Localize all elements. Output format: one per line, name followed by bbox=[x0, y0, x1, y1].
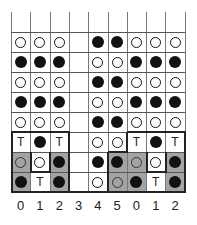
filled-circle-icon bbox=[150, 56, 162, 68]
grid-cell bbox=[88, 92, 107, 112]
grid-vline bbox=[88, 12, 89, 192]
filled-circle-icon bbox=[34, 56, 46, 68]
filled-circle-icon bbox=[111, 76, 123, 88]
grid-cell bbox=[69, 152, 88, 172]
open-circle-icon bbox=[15, 77, 26, 88]
grid-row bbox=[11, 72, 185, 92]
grid-cell bbox=[146, 92, 165, 112]
grid-cell: T bbox=[146, 172, 165, 192]
grid-cell bbox=[30, 152, 49, 172]
column-label: 2 bbox=[165, 198, 184, 213]
filled-circle-icon bbox=[53, 156, 65, 168]
grid-cell bbox=[69, 32, 88, 52]
grid-vline bbox=[127, 12, 128, 192]
tuck-symbol: T bbox=[17, 136, 24, 148]
grid-cell bbox=[88, 172, 107, 192]
column-label: 4 bbox=[88, 198, 107, 213]
grid-cell bbox=[108, 92, 127, 112]
grid-cell bbox=[127, 72, 146, 92]
grid-cell bbox=[108, 32, 127, 52]
open-circle-icon bbox=[150, 77, 161, 88]
thick-border bbox=[30, 171, 50, 173]
grid-cell bbox=[88, 32, 107, 52]
filled-circle-icon bbox=[130, 176, 142, 188]
thick-border bbox=[11, 132, 13, 193]
tuck-symbol: T bbox=[133, 136, 140, 148]
grid-cell bbox=[165, 152, 184, 172]
grid-cell bbox=[30, 92, 49, 112]
thick-border bbox=[11, 191, 186, 193]
grid-cell bbox=[50, 92, 69, 112]
grid-cell bbox=[88, 72, 107, 92]
filled-circle-icon bbox=[34, 96, 46, 108]
grid-hline bbox=[11, 112, 185, 113]
filled-circle-icon bbox=[92, 76, 104, 88]
grid-cell bbox=[30, 132, 49, 152]
grid-cell bbox=[127, 112, 146, 132]
grid-cell bbox=[11, 172, 30, 192]
grid-cell: T bbox=[50, 132, 69, 152]
grid-row bbox=[11, 152, 185, 172]
open-circle-icon bbox=[92, 97, 103, 108]
open-circle-icon bbox=[112, 177, 123, 188]
thick-border bbox=[49, 152, 51, 173]
thick-border bbox=[68, 132, 70, 193]
filled-circle-icon bbox=[92, 116, 104, 128]
thick-border bbox=[184, 132, 186, 193]
grid-cell bbox=[11, 152, 30, 172]
filled-circle-icon bbox=[34, 136, 46, 148]
open-circle-icon bbox=[92, 57, 103, 68]
tuck-symbol: T bbox=[171, 136, 178, 148]
open-circle-icon bbox=[112, 57, 123, 68]
filled-circle-icon bbox=[53, 96, 65, 108]
grid-cell bbox=[50, 32, 69, 52]
filled-circle-icon bbox=[130, 56, 142, 68]
open-circle-icon bbox=[34, 117, 45, 128]
grid-hline bbox=[11, 52, 185, 53]
grid-cell bbox=[30, 52, 49, 72]
grid-cell: T bbox=[11, 132, 30, 152]
grid-row bbox=[11, 32, 185, 52]
thick-border bbox=[165, 152, 167, 173]
filled-circle-icon bbox=[111, 156, 123, 168]
filled-circle-icon bbox=[111, 116, 123, 128]
open-circle-icon bbox=[112, 97, 123, 108]
grid-cell bbox=[146, 52, 165, 72]
filled-circle-icon bbox=[15, 96, 27, 108]
filled-circle-icon bbox=[53, 176, 65, 188]
open-circle-icon bbox=[15, 117, 26, 128]
open-circle-icon bbox=[54, 77, 65, 88]
grid-hline bbox=[11, 72, 185, 73]
thick-border bbox=[107, 152, 109, 193]
grid-cell bbox=[165, 172, 184, 192]
grid-cell bbox=[108, 132, 127, 152]
thick-border bbox=[11, 131, 70, 133]
grid-cell bbox=[69, 112, 88, 132]
grid-cell bbox=[11, 92, 30, 112]
grid-row bbox=[11, 52, 185, 72]
open-circle-icon bbox=[150, 117, 161, 128]
grid-cell bbox=[50, 72, 69, 92]
grid-cell bbox=[88, 112, 107, 132]
column-label: 1 bbox=[146, 198, 165, 213]
thick-border bbox=[30, 152, 32, 173]
grid-cell bbox=[30, 112, 49, 132]
grid-cell bbox=[50, 52, 69, 72]
grid-cell bbox=[50, 112, 69, 132]
open-circle-icon bbox=[34, 77, 45, 88]
grid-cell bbox=[127, 32, 146, 52]
grid-cell bbox=[11, 32, 30, 52]
grid-cell bbox=[50, 172, 69, 192]
grid-cell bbox=[88, 152, 107, 172]
grid-cell bbox=[165, 92, 184, 112]
thick-border bbox=[127, 131, 186, 133]
grid-cell bbox=[50, 152, 69, 172]
grid-cell: T bbox=[165, 132, 184, 152]
column-label: 3 bbox=[69, 198, 88, 213]
thick-border bbox=[146, 152, 148, 173]
open-circle-icon bbox=[112, 137, 123, 148]
open-circle-icon bbox=[54, 117, 65, 128]
grid-row bbox=[11, 112, 185, 132]
thick-border bbox=[108, 151, 128, 153]
filled-circle-icon bbox=[169, 156, 181, 168]
